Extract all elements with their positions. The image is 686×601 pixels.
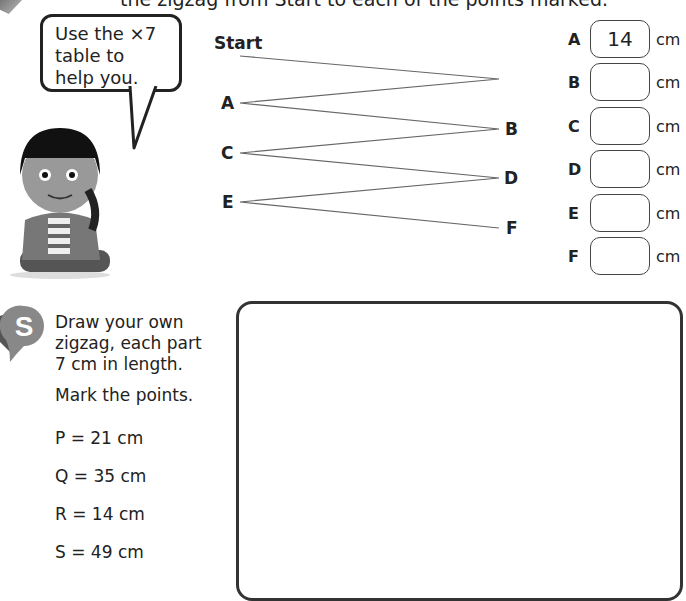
point-label-c: C — [221, 143, 233, 163]
drawing-area[interactable] — [236, 301, 683, 601]
s-badge-icon: S — [0, 302, 46, 366]
point-item: S = 49 cm — [55, 542, 146, 580]
answer-row-d: D cm — [568, 150, 686, 190]
answer-letter: F — [568, 247, 579, 266]
answer-unit: cm — [656, 73, 680, 92]
answer-unit: cm — [656, 204, 680, 223]
answer-letter: C — [568, 117, 580, 136]
point-label-e: E — [222, 192, 234, 212]
answer-letter: B — [568, 73, 580, 92]
task-instructions: Draw your own zigzag, each part 7 cm in … — [55, 312, 202, 416]
task-line: Mark the points. — [55, 385, 202, 406]
answer-unit: cm — [656, 160, 680, 179]
answer-letter: D — [568, 160, 581, 179]
point-list: P = 21 cm Q = 35 cm R = 14 cm S = 49 cm — [55, 428, 146, 580]
point-label-a: A — [221, 93, 234, 113]
answer-unit: cm — [656, 30, 680, 49]
answer-box[interactable]: 14 — [590, 20, 650, 58]
task-line: Draw your own — [55, 312, 202, 333]
point-item: Q = 35 cm — [55, 466, 146, 504]
answer-row-a: A 14 cm — [568, 20, 686, 60]
answer-unit: cm — [656, 117, 680, 136]
answer-unit: cm — [656, 247, 680, 266]
task-line: 7 cm in length. — [55, 354, 202, 375]
point-label-b: B — [505, 119, 518, 139]
answer-row-e: E cm — [568, 194, 686, 234]
point-item: P = 21 cm — [55, 428, 146, 466]
answer-box[interactable] — [590, 150, 650, 188]
answer-box[interactable] — [590, 237, 650, 275]
answer-letter: A — [568, 30, 580, 49]
answer-box[interactable] — [590, 63, 650, 101]
svg-text:S: S — [15, 311, 34, 342]
answer-box[interactable] — [590, 107, 650, 145]
answer-letter: E — [568, 204, 579, 223]
answer-row-f: F cm — [568, 237, 686, 277]
answer-row-b: B cm — [568, 63, 686, 103]
answer-box[interactable] — [590, 194, 650, 232]
task-line: zigzag, each part — [55, 333, 202, 354]
point-item: R = 14 cm — [55, 504, 146, 542]
point-label-f: F — [506, 218, 518, 238]
answer-row-c: C cm — [568, 107, 686, 147]
point-label-d: D — [504, 168, 518, 188]
